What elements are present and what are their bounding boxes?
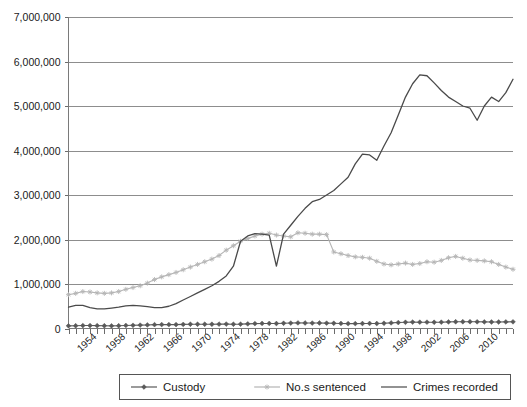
data-point-marker xyxy=(338,251,343,256)
data-point-marker xyxy=(152,277,157,282)
data-point-marker xyxy=(389,262,394,267)
data-point-marker xyxy=(439,258,444,263)
data-point-marker xyxy=(88,290,93,295)
y-axis-tick-label: 7,000,000 xyxy=(14,11,61,23)
data-point-marker xyxy=(446,255,451,260)
y-axis-tick-label: 4,000,000 xyxy=(14,145,61,157)
data-point-marker xyxy=(410,262,415,267)
data-point-marker xyxy=(116,289,121,294)
legend-items: CustodyNo.s sentencedCrimes recorded xyxy=(131,381,498,393)
y-axis-tick-label: 5,000,000 xyxy=(14,100,61,112)
data-point-marker xyxy=(209,257,214,262)
data-point-marker xyxy=(202,259,207,264)
data-point-marker xyxy=(295,230,300,235)
data-point-marker xyxy=(174,270,179,275)
data-point-marker xyxy=(217,253,222,258)
data-point-marker xyxy=(460,256,465,261)
data-point-marker xyxy=(303,231,308,236)
data-point-marker xyxy=(145,281,150,286)
line-chart: 01,000,0002,000,0003,000,0004,000,0005,0… xyxy=(0,0,527,407)
data-point-marker xyxy=(432,260,437,265)
data-point-marker xyxy=(496,262,501,267)
chart-legend: CustodyNo.s sentencedCrimes recorded xyxy=(120,375,511,400)
y-axis-tick-label: 0 xyxy=(55,323,61,335)
data-point-marker xyxy=(80,289,85,294)
data-point-marker xyxy=(181,267,186,272)
data-point-marker xyxy=(224,248,229,253)
chart-container: 01,000,0002,000,0003,000,0004,000,0005,0… xyxy=(0,0,527,407)
legend-label: Crimes recorded xyxy=(413,381,498,393)
data-point-marker xyxy=(346,253,351,258)
data-point-marker xyxy=(159,274,164,279)
data-point-marker xyxy=(453,254,458,259)
data-point-marker xyxy=(138,283,143,288)
data-point-marker xyxy=(188,265,193,270)
data-point-marker xyxy=(482,258,487,263)
data-point-marker xyxy=(374,259,379,264)
data-point-marker xyxy=(381,261,386,266)
legend-label: No.s sentenced xyxy=(286,381,366,393)
data-point-marker xyxy=(66,292,71,297)
data-point-marker xyxy=(489,259,494,264)
data-point-marker xyxy=(424,259,429,264)
legend-label: Custody xyxy=(163,381,205,393)
data-point-marker xyxy=(417,261,422,266)
data-point-marker xyxy=(102,291,107,296)
data-point-marker xyxy=(367,256,372,261)
data-point-marker xyxy=(331,249,336,254)
data-point-marker xyxy=(396,261,401,266)
data-point-marker xyxy=(131,285,136,290)
data-point-marker xyxy=(274,233,279,238)
data-point-marker xyxy=(195,262,200,267)
data-point-marker xyxy=(166,272,171,277)
data-point-marker xyxy=(403,261,408,266)
y-axis-tick-label: 6,000,000 xyxy=(14,56,61,68)
data-point-marker xyxy=(109,290,114,295)
data-point-marker xyxy=(265,385,270,390)
y-axis-tick-label: 2,000,000 xyxy=(14,234,61,246)
data-point-marker xyxy=(310,232,315,237)
data-point-marker xyxy=(288,234,293,239)
data-point-marker xyxy=(95,290,100,295)
y-axis-tick-label: 1,000,000 xyxy=(14,278,61,290)
data-point-marker xyxy=(353,254,358,259)
data-point-marker xyxy=(511,267,516,272)
data-point-marker xyxy=(73,291,78,296)
data-point-marker xyxy=(360,255,365,260)
data-point-marker xyxy=(503,265,508,270)
data-point-marker xyxy=(231,243,236,248)
data-point-marker xyxy=(317,232,322,237)
data-point-marker xyxy=(467,257,472,262)
data-point-marker xyxy=(475,258,480,263)
data-point-marker xyxy=(324,232,329,237)
y-axis-tick-label: 3,000,000 xyxy=(14,189,61,201)
